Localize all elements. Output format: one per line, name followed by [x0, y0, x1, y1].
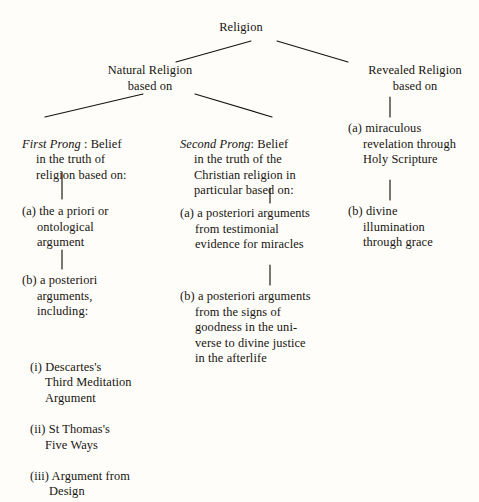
- first-prong-subitem-i: (i) Descartes's Third Meditation Argumen…: [30, 360, 180, 407]
- first-prong-heading-rest: : Belief: [81, 137, 122, 151]
- second-prong-label: Second Prong: [180, 137, 251, 151]
- node-revealed-religion: Revealed Religion based on: [352, 63, 478, 94]
- node-first-prong-item-b: (b) a posteriori arguments, including:: [22, 273, 177, 320]
- node-second-prong-item-b: (b) a posteriori arguments from the sign…: [180, 289, 371, 367]
- edge-natural-to-second-prong: [195, 94, 272, 117]
- node-second-prong-heading: Second Prong: Belief in the truth of the…: [180, 121, 338, 215]
- node-religion-root: Religion: [198, 20, 284, 36]
- edge-root-to-revealed: [277, 41, 348, 62]
- first-prong-heading-lines: in the truth of religion based on:: [22, 152, 162, 183]
- node-revealed-item-b: (b) divine illumination through grace: [348, 204, 479, 251]
- first-prong-subitem-ii: (ii) St Thomas's Five Ways: [30, 422, 180, 453]
- second-prong-heading-lines: in the truth of the Christian religion i…: [180, 152, 338, 199]
- node-first-prong-item-a: (a) the a priori or ontological argument: [22, 204, 177, 251]
- first-prong-subitem-iii: (iii) Argument from Design: [30, 469, 180, 500]
- node-revealed-item-a: (a) miraculous revelation through Holy S…: [348, 121, 479, 168]
- node-natural-religion: Natural Religion based on: [88, 63, 212, 94]
- edge-natural-to-first-prong: [45, 94, 143, 117]
- first-prong-label: First Prong: [22, 137, 81, 151]
- first-prong-sublist: (i) Descartes's Third Meditation Argumen…: [30, 344, 180, 502]
- node-first-prong-heading: First Prong : Belief in the truth of rel…: [22, 121, 162, 199]
- second-prong-heading-rest: : Belief: [251, 137, 289, 151]
- node-second-prong-item-a: (a) a posteriori arguments from testimon…: [180, 206, 367, 253]
- edge-root-to-natural: [176, 41, 251, 62]
